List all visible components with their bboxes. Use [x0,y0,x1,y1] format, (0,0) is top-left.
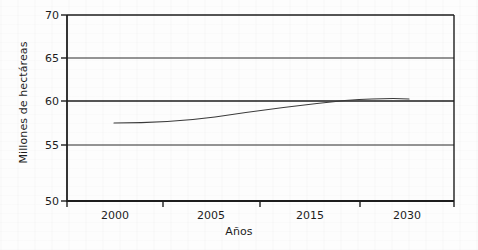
axis-lines [67,15,454,202]
y-tick-label-50: 50 [31,195,59,208]
x-tick-label-2030: 2030 [379,209,435,222]
x-tick-label-2005: 2005 [183,209,239,222]
data-series-line [114,99,409,124]
y-tick-label-55: 55 [31,139,59,152]
y-axis-title: Millones de hectáreas [17,23,30,183]
y-tick-label-60: 60 [31,95,59,108]
y-tick-label-65: 65 [31,52,59,65]
x-tick-label-2000: 2000 [87,209,143,222]
gridlines [67,15,454,145]
chart-figure: 70 65 60 55 50 2000 2005 2015 2030 Millo… [0,0,478,250]
y-tick-label-70: 70 [31,9,59,22]
x-tick-label-2015: 2015 [282,209,338,222]
x-axis-title: Años [0,225,478,238]
